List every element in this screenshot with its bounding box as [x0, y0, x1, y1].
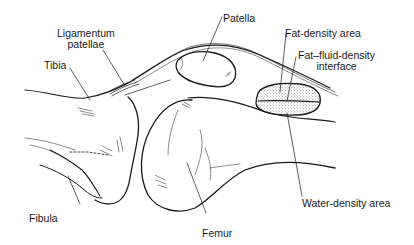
- label-ligamentum-line2: patellae: [57, 39, 115, 50]
- label-interface-line2: interface: [298, 61, 375, 72]
- label-patella: Patella: [223, 13, 255, 24]
- label-fat-fluid-interface: Fat–fluid-density interface: [298, 50, 375, 72]
- label-ligamentum-patellae: Ligamentum patellae: [57, 28, 115, 50]
- label-tibia: Tibia: [44, 60, 66, 71]
- patella-outline: [176, 52, 236, 87]
- label-fibula: Fibula: [29, 213, 58, 224]
- suprapatellar-effusion: [256, 83, 320, 115]
- knee-diagram: Ligamentum patellae Tibia Patella Fat-de…: [0, 0, 414, 245]
- tibia: [25, 97, 139, 204]
- label-fat-density-area: Fat-density area: [285, 28, 361, 39]
- label-water-density-area: Water-density area: [302, 198, 390, 209]
- label-femur: Femur: [202, 228, 232, 239]
